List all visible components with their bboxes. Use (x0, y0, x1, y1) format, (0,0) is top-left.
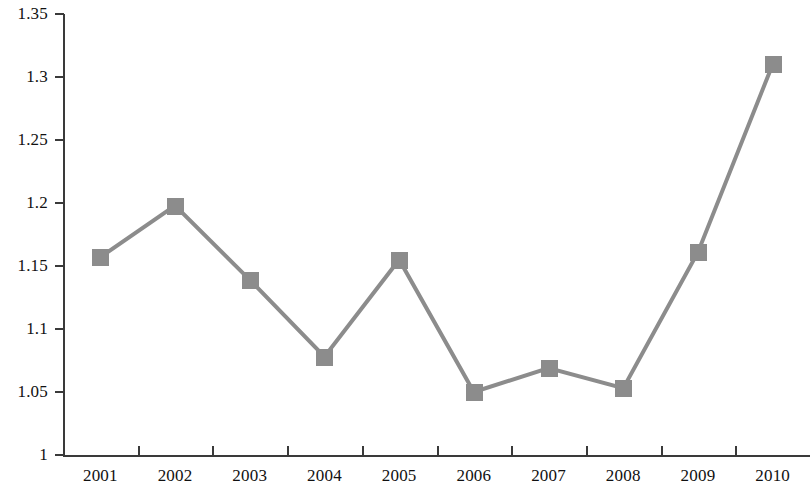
data-point-marker (765, 56, 782, 73)
data-point-marker (92, 249, 109, 266)
data-point-marker (466, 384, 483, 401)
line-chart: 11.051.11.151.21.251.31.35 2001200220032… (0, 0, 812, 499)
data-point-marker (391, 252, 408, 269)
data-point-marker (690, 244, 707, 261)
data-point-marker (615, 380, 632, 397)
data-point-marker (316, 349, 333, 366)
data-point-marker (242, 272, 259, 289)
data-point-marker (167, 198, 184, 215)
data-point-marker (541, 360, 558, 377)
